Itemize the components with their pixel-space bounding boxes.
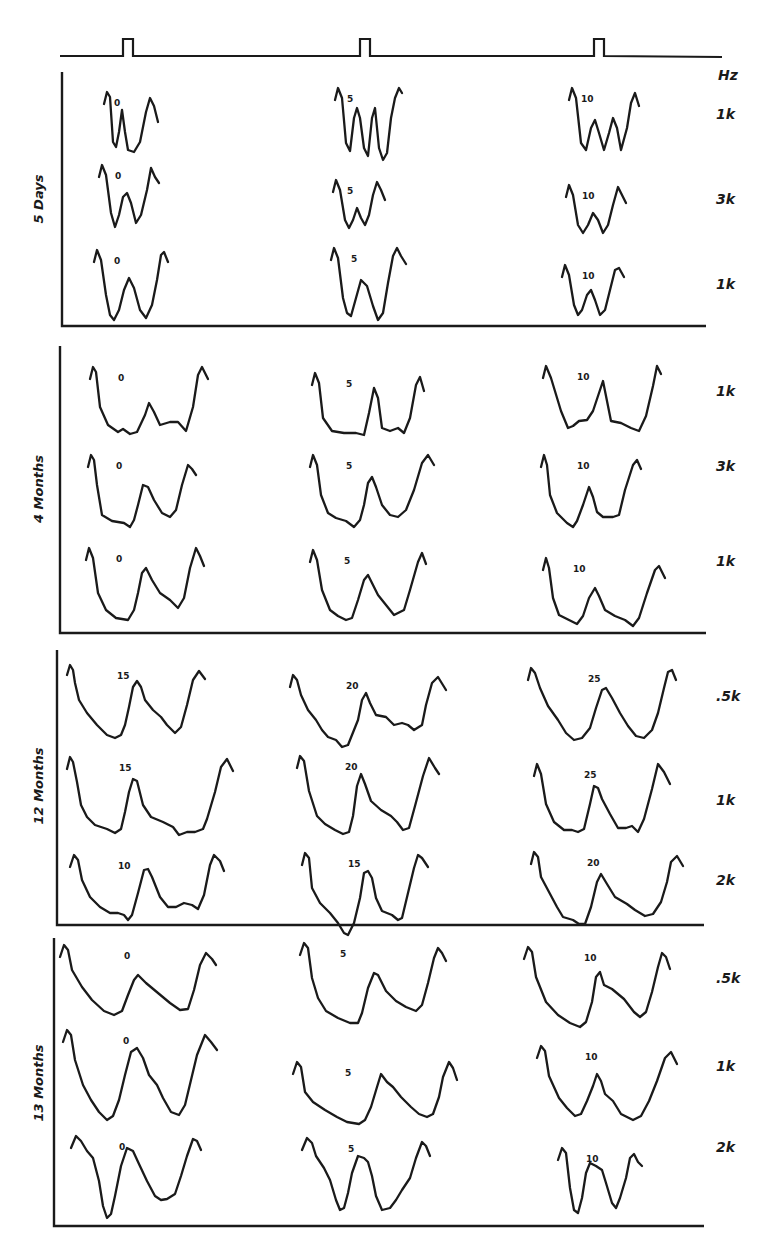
- stimulus-pulse-trace: [60, 39, 722, 57]
- unit-label-hz: Hz: [718, 67, 739, 83]
- waveform-trace: [534, 764, 670, 832]
- waveform-trace: [90, 367, 208, 434]
- trace-label: 5: [346, 461, 352, 471]
- trace-label: 0: [114, 256, 120, 266]
- trace-label: 5: [345, 1068, 351, 1078]
- waveform-trace: [558, 1148, 642, 1213]
- trace-label: 0: [123, 1036, 129, 1046]
- waveform-trace: [312, 373, 424, 435]
- trace-label: 10: [581, 94, 594, 104]
- waveform-trace: [541, 455, 641, 527]
- trace-label: 10: [118, 861, 131, 871]
- trace-label: 20: [345, 762, 358, 772]
- trace-label: 10: [586, 1154, 599, 1164]
- waveform-trace: [104, 92, 158, 152]
- trace-label: 5: [348, 1144, 354, 1154]
- trace-label: 20: [587, 858, 600, 868]
- waveform-trace: [335, 88, 402, 160]
- row-freq-label: 2k: [716, 872, 737, 888]
- trace-label: 0: [115, 171, 121, 181]
- trace-label: 15: [117, 671, 130, 681]
- trace-label: 10: [577, 372, 590, 382]
- trace-label: 0: [124, 951, 130, 961]
- panel-4-months: 4 Months 1k 3k 1k: [31, 346, 737, 633]
- row-freq-label: 1k: [716, 792, 737, 808]
- waveform-trace: [94, 250, 168, 320]
- waveform-trace: [302, 1138, 430, 1210]
- row-freq-label: .5k: [716, 970, 742, 986]
- trace-label: 0: [114, 98, 120, 108]
- trace-label: 0: [118, 373, 124, 383]
- row-freq-label: 1k: [716, 1058, 737, 1074]
- trace-label: 5: [346, 379, 352, 389]
- waveform-trace: [60, 945, 216, 1015]
- row-freq-label: 3k: [716, 191, 737, 207]
- trace-label: 5: [351, 254, 357, 264]
- waveform-trace: [70, 855, 224, 920]
- trace-label: 0: [116, 554, 122, 564]
- waveform-trace: [331, 248, 406, 320]
- trace-label: 5: [347, 186, 353, 196]
- waveform-trace: [293, 1062, 457, 1124]
- row-freq-label: 1k: [716, 276, 737, 292]
- waveform-trace: [297, 756, 439, 834]
- waveform-trace: [310, 455, 434, 527]
- waveform-trace: [67, 665, 205, 738]
- waveform-trace: [300, 943, 446, 1023]
- waveform-trace: [569, 88, 639, 150]
- row-freq-label: 1k: [716, 106, 737, 122]
- trace-label: 15: [348, 859, 361, 869]
- waveform-trace: [524, 947, 670, 1027]
- row-freq-label: 2k: [716, 1139, 737, 1155]
- waveform-trace: [67, 757, 233, 835]
- waveform-trace: [63, 1030, 217, 1120]
- waveform-figure: Hz 5 Days 1k 3k 1k 4 Months 1k 3k 1k 12 …: [0, 0, 766, 1255]
- trace-label: 25: [584, 770, 597, 780]
- row-freq-label: 1k: [716, 553, 737, 569]
- waveform-trace: [566, 185, 626, 233]
- waveform-trace: [543, 366, 661, 431]
- row-freq-label: 3k: [716, 458, 737, 474]
- trace-label: 10: [577, 461, 590, 471]
- waveform-trace: [333, 180, 385, 228]
- waveform-traces: 0510051005100510051005101520251520251015…: [60, 88, 683, 1218]
- waveform-trace: [86, 548, 204, 620]
- waveform-trace: [99, 165, 159, 227]
- trace-label: 10: [584, 953, 597, 963]
- waveform-trace: [531, 852, 683, 924]
- waveform-trace: [88, 455, 196, 527]
- waveform-trace: [528, 668, 676, 740]
- trace-label: 10: [585, 1052, 598, 1062]
- age-label: 5 Days: [31, 174, 46, 223]
- trace-label: 5: [344, 556, 350, 566]
- trace-label: 20: [346, 681, 359, 691]
- trace-label: 15: [119, 763, 132, 773]
- waveform-trace: [71, 1136, 201, 1218]
- trace-label: 25: [588, 674, 601, 684]
- waveform-trace: [310, 550, 426, 620]
- waveform-trace: [543, 558, 665, 626]
- waveform-trace: [537, 1046, 677, 1120]
- row-freq-label: 1k: [716, 383, 737, 399]
- waveform-trace: [302, 853, 428, 935]
- trace-label: 5: [347, 94, 353, 104]
- trace-label: 5: [340, 949, 346, 959]
- waveform-trace: [290, 675, 446, 747]
- age-label: 4 Months: [31, 455, 46, 524]
- trace-label: 10: [582, 191, 595, 201]
- trace-label: 10: [573, 564, 586, 574]
- trace-label: 0: [119, 1142, 125, 1152]
- row-freq-label: .5k: [716, 688, 742, 704]
- age-label: 13 Months: [31, 1044, 46, 1121]
- age-label: 12 Months: [31, 747, 46, 824]
- trace-label: 10: [582, 271, 595, 281]
- trace-label: 0: [116, 461, 122, 471]
